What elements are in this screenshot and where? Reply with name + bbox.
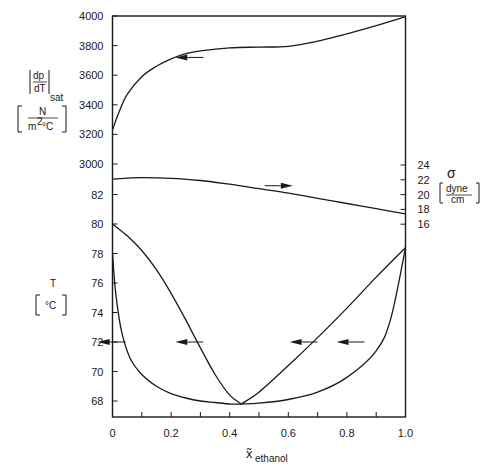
temperature-curve xyxy=(241,248,405,404)
curves xyxy=(113,17,406,404)
tick-label: 3200 xyxy=(79,128,103,140)
tick-label: 0.4 xyxy=(222,427,237,439)
plot-frame xyxy=(113,16,406,417)
degc-unit: °C xyxy=(42,121,53,132)
tick-label: 76 xyxy=(91,277,103,289)
tick-label: 0 xyxy=(109,427,115,439)
tick-label: 3400 xyxy=(79,99,103,111)
temperature-curve xyxy=(241,248,405,404)
degc-label: °C xyxy=(45,300,56,311)
dpdt-curve xyxy=(113,17,406,130)
x-axis-label: x̃ ethanol xyxy=(246,446,288,464)
x-label-main: x̃ xyxy=(246,446,253,461)
arrowhead-icon xyxy=(290,339,302,345)
tick-label: 70 xyxy=(91,366,103,378)
tick-label: 3600 xyxy=(79,69,103,81)
tick-label: 82 xyxy=(91,189,103,201)
tick-label: 4000 xyxy=(79,10,103,22)
temperature-curve xyxy=(113,254,242,405)
arrowhead-icon xyxy=(175,339,187,345)
tick-label: 0.6 xyxy=(281,427,296,439)
cm-unit: cm xyxy=(451,194,464,205)
tick-label: 3800 xyxy=(79,40,103,52)
dt-label: dT xyxy=(34,83,46,94)
temperature-curve xyxy=(113,224,242,404)
tick-label: 0.2 xyxy=(163,427,178,439)
tick-label: 68 xyxy=(91,395,103,407)
m-unit: m xyxy=(28,121,36,132)
tick-label: 74 xyxy=(91,307,103,319)
bottom-axis-ticks: 00.20.40.60.81.0 xyxy=(109,412,413,439)
tick-label: 20 xyxy=(418,189,430,201)
arrowhead-icon xyxy=(336,339,348,345)
tick-label: 0.8 xyxy=(339,427,354,439)
arrowhead-icon xyxy=(281,183,293,189)
dp-label: dp xyxy=(33,70,45,81)
sigma-curve xyxy=(113,178,406,214)
tick-label: 80 xyxy=(91,218,103,230)
left-axis-ticks: 4000380036003400320030008280787674727068 xyxy=(79,10,117,407)
tick-label: 1.0 xyxy=(398,427,413,439)
sigma-axis-label: σ dyne cm xyxy=(440,165,479,205)
sigma-label: σ xyxy=(447,165,456,181)
tick-label: 24 xyxy=(418,159,430,171)
tick-label: 18 xyxy=(418,203,430,215)
chart: 4000380036003400320030008280787674727068… xyxy=(0,0,496,472)
x-label-sub: ethanol xyxy=(255,453,288,464)
dyne-unit: dyne xyxy=(446,183,468,194)
temperature-axis-label: T °C xyxy=(36,278,66,315)
tick-label: 78 xyxy=(91,248,103,260)
t-label: T xyxy=(50,278,56,289)
tick-label: 22 xyxy=(418,174,430,186)
dpdt-axis-label: dp dT sat N m 2 °C xyxy=(18,70,66,132)
tick-label: 3000 xyxy=(79,158,103,170)
tick-label: 16 xyxy=(418,218,430,230)
sat-subscript: sat xyxy=(50,92,64,103)
